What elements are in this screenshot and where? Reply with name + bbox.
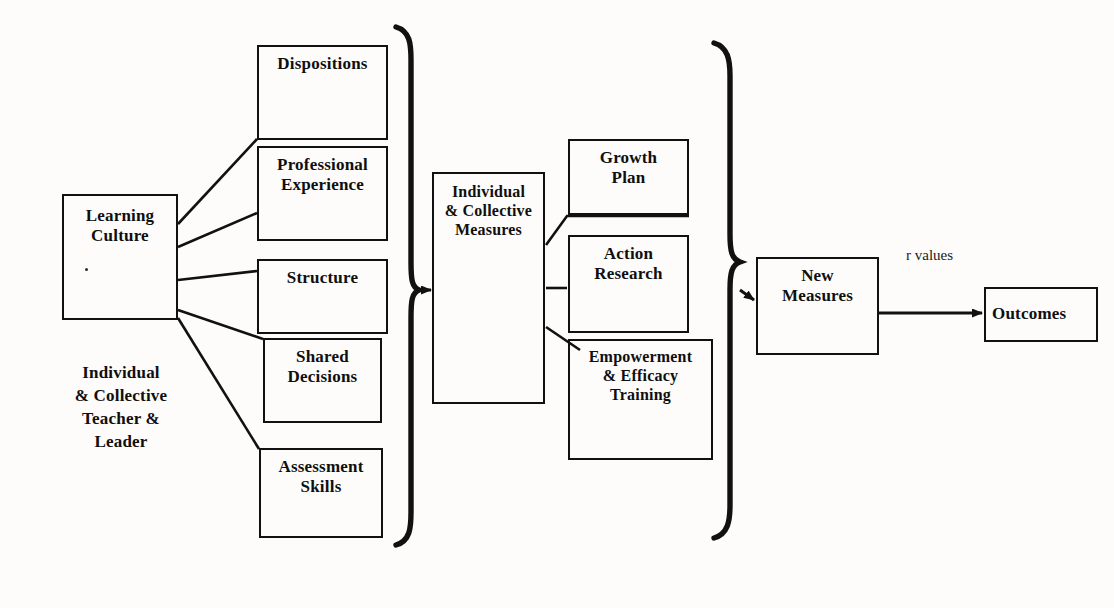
group-brace-right — [714, 43, 740, 538]
node-new-measures-label: New Measures — [782, 266, 853, 305]
node-individual-collective-measures[interactable]: Individual & Collective Measures — [432, 172, 545, 404]
node-growth-plan-label: Growth Plan — [600, 148, 658, 187]
connector-brace-right-to-new-measures — [740, 290, 754, 300]
node-empowerment-efficacy-training-label: Empowerment & Efficacy Training — [589, 348, 693, 403]
node-dispositions[interactable]: Dispositions — [257, 45, 388, 140]
node-assessment-skills[interactable]: Assessment Skills — [259, 448, 383, 538]
group-brace-left — [396, 27, 419, 545]
connector-learning-culture-to-dispositions — [178, 139, 257, 224]
node-shared-decisions-label: Shared Decisions — [288, 347, 358, 386]
node-learning-culture-label: Learning Culture — [86, 206, 155, 246]
connector-learning-culture-to-structure — [178, 271, 257, 280]
node-outcomes[interactable]: Outcomes — [984, 287, 1098, 342]
node-individual-collective-measures-label: Individual & Collective Measures — [445, 183, 532, 238]
connector-learning-culture-to-shared-decisions — [178, 310, 263, 339]
node-action-research-label: Action Research — [594, 244, 662, 283]
node-outcomes-label: Outcomes — [992, 304, 1066, 324]
node-structure[interactable]: Structure — [257, 259, 388, 334]
diagram-canvas: Learning Culture Individual & Collective… — [0, 0, 1114, 608]
node-shared-decisions[interactable]: Shared Decisions — [263, 338, 382, 423]
node-new-measures[interactable]: New Measures — [756, 257, 879, 355]
connector-learning-culture-to-professional-experience — [178, 213, 257, 247]
node-action-research[interactable]: Action Research — [568, 235, 689, 333]
node-professional-experience[interactable]: Professional Experience — [257, 146, 388, 241]
node-assessment-skills-label: Assessment Skills — [278, 457, 363, 496]
node-empowerment-efficacy-training[interactable]: Empowerment & Efficacy Training — [568, 339, 713, 460]
node-learning-culture[interactable]: Learning Culture — [62, 194, 178, 320]
edge-label-r-values: r values — [906, 247, 953, 264]
node-structure-label: Structure — [287, 268, 358, 287]
node-growth-plan[interactable]: Growth Plan — [568, 139, 689, 215]
learning-culture-caption: Individual & Collective Teacher & Leader — [46, 362, 196, 454]
node-professional-experience-label: Professional Experience — [277, 155, 368, 194]
node-dispositions-label: Dispositions — [277, 54, 367, 73]
